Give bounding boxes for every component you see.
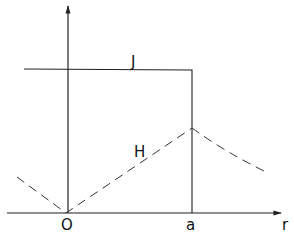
field-profile-diagram: J H O a r: [0, 0, 294, 233]
x-axis-label: r: [282, 216, 289, 233]
h-label: H: [134, 143, 145, 161]
j-label: J: [130, 53, 135, 71]
h-dashed-curve: [17, 128, 192, 213]
origin-label: O: [61, 216, 73, 233]
diagram-canvas: J H O a r: [0, 0, 294, 233]
a-tick-label: a: [186, 216, 195, 233]
h-dashed-tail: [192, 128, 266, 172]
j-step-curve: [24, 69, 192, 213]
